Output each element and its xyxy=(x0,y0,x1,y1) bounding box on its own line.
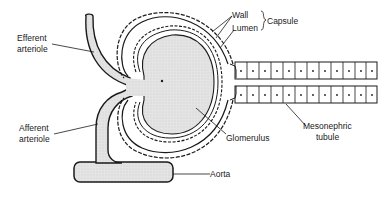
mesonephric-tubule xyxy=(230,62,377,103)
label-wall: Wall xyxy=(232,10,248,20)
label-aorta: Aorta xyxy=(210,169,231,179)
glomerulus xyxy=(142,35,214,134)
label-mesonephric-1: Mesonephric xyxy=(303,121,352,131)
mesonephros-diagram: Efferent arteriole Afferent arteriole Wa… xyxy=(0,0,385,197)
label-glomerulus: Glomerulus xyxy=(226,133,269,143)
afferent-arteriole xyxy=(96,88,132,163)
label-mesonephric-2: tubule xyxy=(316,132,339,142)
efferent-arteriole xyxy=(86,14,130,86)
label-lumen: Lumen xyxy=(232,23,258,33)
label-afferent-2: arteriole xyxy=(19,134,50,144)
aorta xyxy=(74,162,173,182)
label-afferent-1: Afferent xyxy=(19,123,49,133)
label-efferent-1: Efferent xyxy=(17,33,47,43)
capsule-brace xyxy=(261,11,266,30)
label-capsule: Capsule xyxy=(267,16,298,26)
label-efferent-2: arteriole xyxy=(17,44,48,54)
